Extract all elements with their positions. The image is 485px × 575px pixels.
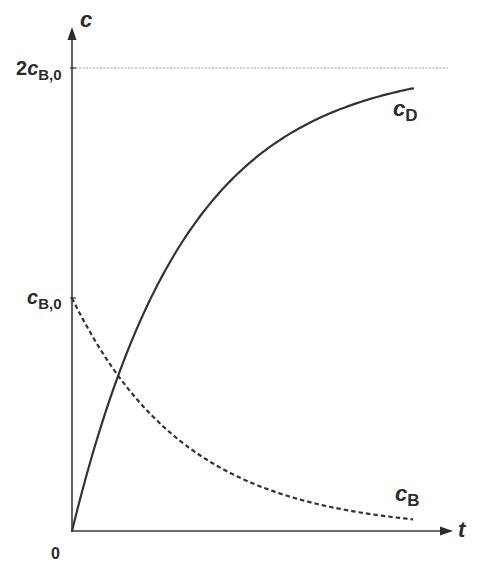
y-axis-arrow-icon [68,27,77,40]
origin-label: 0 [51,546,60,562]
tick-label-2cb0-sub: B,0 [38,66,61,83]
tick-label-2cb0-var: c [27,57,38,79]
x-axis-label: t [458,519,465,541]
curve-cd-solid [72,88,413,531]
tick-label-cb0-var: c [27,286,38,308]
tick-label-cb0: cB,0 [27,287,61,307]
tick-label-2cb0-prefix: 2 [16,57,27,79]
curve-label-cb-sub: B [407,491,419,510]
curve-label-cd: cD [393,98,418,120]
curve-label-cd-sub: D [405,106,417,125]
tick-label-2cb0: 2cB,0 [16,58,62,78]
curve-label-cb-var: c [395,481,407,506]
curve-cb-dashed [72,298,413,519]
y-axis-label: c [80,9,92,31]
tick-label-cb0-sub: B,0 [38,295,61,312]
curve-label-cb: cB [395,483,420,505]
curve-label-cd-var: c [393,96,405,121]
x-axis-arrow-icon [440,527,453,536]
